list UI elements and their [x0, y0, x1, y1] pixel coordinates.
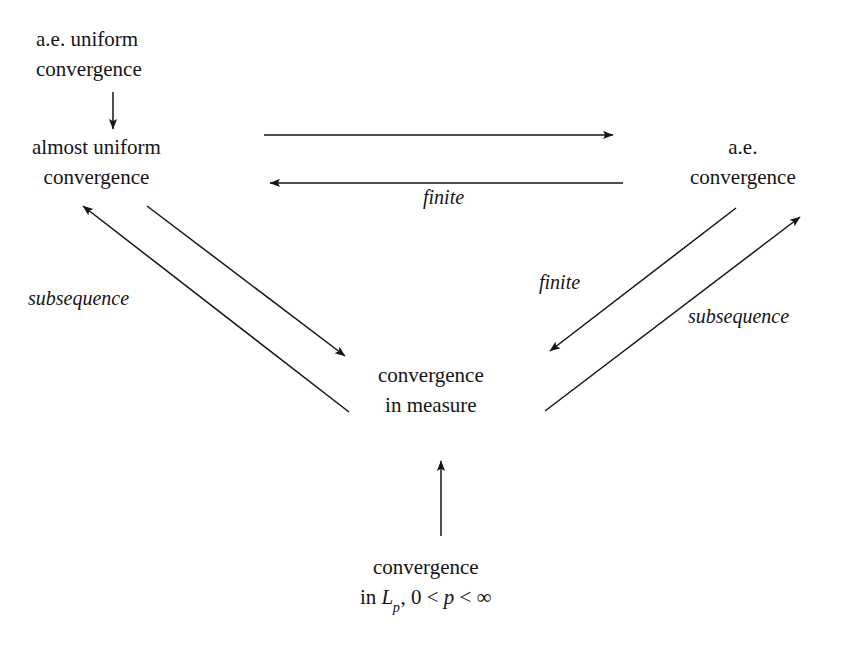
node-ae-uniform-convergence: a.e. uniform convergence [36, 25, 142, 85]
node-almost-uniform-convergence-line-2: convergence [32, 163, 161, 193]
node-convergence-in-measure: convergence in measure [378, 361, 484, 421]
node-convergence-in-lp-line-2: in Lp, 0 < p < ∞ [360, 583, 492, 614]
edge-label-finite-top: finite [423, 186, 464, 209]
node-ae-convergence: a.e. convergence [690, 133, 796, 193]
edge-almost-uniform-to-in-measure [147, 206, 345, 356]
lp-subscript: p [393, 599, 400, 615]
node-convergence-in-lp-line-1: convergence [360, 553, 492, 583]
edge-label-subsequence-right: subsequence [688, 305, 789, 328]
node-ae-convergence-line-2: convergence [690, 163, 796, 193]
edge-label-finite-right: finite [539, 271, 580, 294]
node-almost-uniform-convergence-line-1: almost uniform [32, 133, 161, 163]
lp-variable: p [444, 585, 455, 609]
node-ae-uniform-convergence-line-2: convergence [36, 55, 142, 85]
node-almost-uniform-convergence: almost uniform convergence [32, 133, 161, 193]
lp-prefix: in [360, 585, 382, 609]
node-convergence-in-lp: convergence in Lp, 0 < p < ∞ [360, 553, 492, 614]
lp-suffix: , 0 < [400, 585, 443, 609]
node-ae-convergence-line-1: a.e. [690, 133, 796, 163]
node-ae-uniform-convergence-line-1: a.e. uniform [36, 25, 142, 55]
lp-tail: < [454, 585, 476, 609]
node-convergence-in-measure-line-2: in measure [378, 391, 484, 421]
infinity-symbol: ∞ [477, 585, 492, 609]
edge-label-subsequence-left: subsequence [28, 287, 129, 310]
node-convergence-in-measure-line-1: convergence [378, 361, 484, 391]
convergence-diagram: a.e. uniform convergence almost uniform … [0, 0, 857, 652]
lp-base: L [382, 585, 394, 609]
